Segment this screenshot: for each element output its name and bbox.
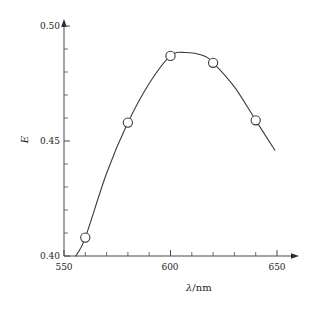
x-tick-label-550: 550 — [48, 262, 80, 272]
y-tick-label-040: 0.40 — [26, 251, 60, 261]
y-axis — [61, 19, 67, 256]
x-axis-title: λ/nm — [186, 282, 212, 293]
data-curve — [76, 52, 275, 256]
x-axis — [64, 253, 299, 259]
data-point-marker — [123, 118, 132, 127]
data-point-marker — [81, 233, 90, 242]
data-point-marker — [209, 58, 218, 67]
y-axis-major-ticks — [64, 26, 70, 256]
y-tick-label-045: 0.45 — [26, 136, 60, 146]
y-tick-label-050: 0.50 — [26, 21, 60, 31]
data-point-markers — [81, 51, 261, 242]
x-tick-label-600: 600 — [154, 262, 186, 272]
data-point-marker — [166, 51, 175, 60]
x-tick-label-650: 650 — [261, 262, 293, 272]
y-axis-title: E — [19, 133, 30, 147]
x-axis-major-ticks — [64, 250, 277, 256]
chart-figure: 0.50 0.45 0.40 550 600 650 E λ/nm — [0, 0, 310, 311]
data-point-marker — [251, 116, 260, 125]
x-axis-title-unit: nm — [196, 282, 212, 293]
